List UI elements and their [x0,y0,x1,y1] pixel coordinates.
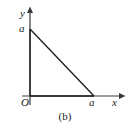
y-axis-label: y [20,8,25,19]
triangle-diagram-svg [0,0,130,128]
x-axis-label: x [112,97,117,108]
y-intercept-value-label: a [19,23,25,34]
figure-caption: (b) [0,110,130,122]
x-intercept-value-label: a [89,97,95,108]
origin-label: O [21,97,29,108]
triangle-hypotenuse [30,29,94,96]
figure-container: y x a a O (b) [0,0,130,128]
